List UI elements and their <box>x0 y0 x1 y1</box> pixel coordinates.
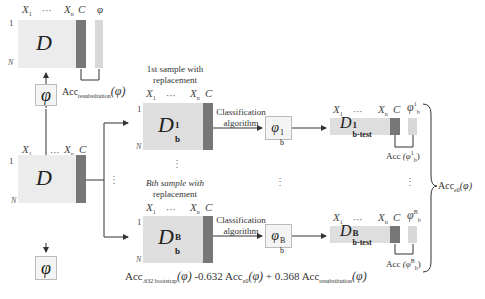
sample-title: Bth sample withreplacement <box>140 178 210 200</box>
phi-column <box>95 20 103 68</box>
bootstrap-model-1: φ1b <box>265 116 292 140</box>
row-1-label: 1 <box>9 156 14 166</box>
acc-ellipsis: ⋮ <box>405 180 411 184</box>
branch-ellipsis: ⋮ <box>109 178 115 182</box>
model-ellipsis: ⋮ <box>275 180 281 184</box>
col-x1-label: X1 <box>146 201 156 215</box>
acc-sample-B: Acc (φBb) <box>386 258 421 271</box>
col-x1-label: X1 <box>22 3 32 17</box>
row-n-label: N <box>136 142 141 151</box>
test-phi-column <box>408 118 417 135</box>
class-col-label: C <box>78 3 85 15</box>
row-n-label: N <box>136 255 141 264</box>
col-ellipsis: ··· <box>166 90 176 101</box>
test-class-column <box>390 118 400 135</box>
class-column <box>76 20 86 68</box>
acc-resubstitution-label: Accresubstitution(φ) <box>62 84 125 99</box>
bootstrap-model-B: φBb <box>265 224 292 248</box>
classification-algorithm-label: Classificationalgorithm <box>212 107 270 129</box>
test-phi-col-label: φ1b <box>407 100 420 115</box>
col-xn-label: Xn <box>190 87 200 101</box>
test-phi-column <box>408 226 417 243</box>
bootstrap-632-formula: Acc.632 bootstrap(φ) -0.632 Acce0(φ) + 0… <box>125 269 367 284</box>
sample-dataset-symbol: DBb <box>158 224 184 250</box>
row-1-label: 1 <box>137 217 142 227</box>
row-1-label: 1 <box>9 18 14 28</box>
classification-algorithm-label: Classificationalgorithm <box>212 215 270 237</box>
sample-title: 1st sample withreplacement <box>140 64 210 86</box>
sample-dataset-symbol: D1b <box>158 112 184 138</box>
phi-model-top: φ <box>35 84 57 106</box>
col-xn-label: Xn <box>64 3 74 17</box>
col-ellipsis: ··· <box>166 204 176 215</box>
phi-col-label: φ <box>97 3 103 15</box>
col-ellipsis: ··· <box>42 5 52 16</box>
row-n-label: N <box>8 58 13 67</box>
test-class-column <box>390 226 400 243</box>
test-dataset-symbol: D1b-test <box>340 114 382 132</box>
test-phi-col-label: φBb <box>407 208 421 223</box>
row-n-label: N <box>11 196 16 205</box>
test-class-col-label: C <box>393 211 400 223</box>
acc-sample-1: Acc (φ1b) <box>386 150 420 163</box>
class-col-label: C <box>205 201 212 213</box>
acc-e0-label: Acce0(φ) <box>438 180 472 193</box>
phi-model-bottom: φ <box>35 256 57 280</box>
sample-ellipsis: ⋮ <box>172 162 178 166</box>
dataset-symbol: D <box>36 165 52 191</box>
row-1-label: 1 <box>137 104 142 114</box>
test-class-col-label: C <box>393 103 400 115</box>
class-column <box>76 155 86 203</box>
class-col-label: C <box>79 143 86 155</box>
col-xn-label: Xn <box>190 201 200 215</box>
dataset-symbol: D <box>36 30 52 56</box>
test-dataset-symbol: DBb-test <box>340 222 382 240</box>
class-col-label: C <box>205 87 212 99</box>
col-x1-label: X1 <box>146 87 156 101</box>
